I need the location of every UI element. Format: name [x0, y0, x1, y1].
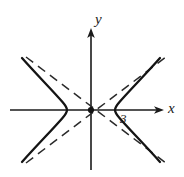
hyperbola-figure: y x 3 — [0, 0, 184, 177]
origin-marker — [88, 107, 94, 113]
x-axis-label: x — [168, 101, 175, 116]
graph-canvas — [0, 0, 184, 177]
y-axis-label: y — [95, 12, 102, 27]
right-vertex-label: 3 — [120, 112, 127, 125]
